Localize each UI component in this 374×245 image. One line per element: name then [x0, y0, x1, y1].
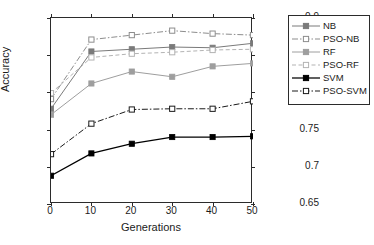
x-tick-label: 30	[151, 206, 191, 216]
data-point-marker	[89, 49, 94, 54]
chart-legend: NBPSO-NBRFPSO-RFSVMPSO-SVM	[288, 15, 370, 105]
chart-figure: Accuracy Generations 0.650.70.750.80.850…	[0, 0, 374, 245]
x-tick-label: 0	[30, 206, 70, 216]
legend-swatch-icon	[291, 59, 321, 71]
data-point-marker	[129, 51, 134, 56]
legend-item-label: NB	[323, 21, 336, 31]
data-point-marker	[250, 134, 253, 139]
legend-item-pso-svm[interactable]: PSO-SVM	[291, 84, 367, 97]
data-point-marker	[170, 50, 175, 55]
data-point-marker	[129, 33, 134, 38]
data-point-marker	[250, 41, 253, 46]
legend-swatch-icon	[291, 20, 321, 32]
legend-item-label: PSO-NB	[323, 34, 359, 44]
data-point-marker	[51, 91, 54, 96]
data-point-marker	[250, 99, 253, 104]
legend-swatch-icon	[291, 46, 321, 58]
data-point-marker	[51, 152, 54, 157]
data-point-marker	[250, 33, 253, 38]
x-tick-label: 40	[192, 206, 232, 216]
x-tick-label: 50	[232, 206, 272, 216]
data-point-marker	[170, 74, 175, 79]
legend-swatch-icon	[291, 72, 321, 84]
legend-item-rf[interactable]: RF	[291, 45, 367, 58]
data-point-marker	[170, 106, 175, 111]
legend-item-label: PSO-SVM	[323, 86, 367, 96]
data-point-marker	[89, 81, 94, 86]
legend-swatch-icon	[291, 33, 321, 45]
series-line	[51, 43, 253, 108]
x-axis-title: Generations	[50, 221, 252, 233]
x-tick-mark	[253, 14, 254, 18]
data-point-marker	[250, 47, 253, 52]
legend-item-label: SVM	[323, 73, 344, 83]
legend-swatch-icon	[291, 85, 321, 97]
legend-item-pso-nb[interactable]: PSO-NB	[291, 32, 367, 45]
legend-item-nb[interactable]: NB	[291, 19, 367, 32]
legend-item-svm[interactable]: SVM	[291, 71, 367, 84]
data-point-marker	[210, 134, 215, 139]
data-point-marker	[51, 96, 54, 101]
data-point-marker	[210, 64, 215, 69]
y-axis-title: Accuracy	[0, 47, 11, 92]
data-point-marker	[51, 106, 54, 111]
series-line	[51, 136, 253, 175]
data-point-marker	[89, 55, 94, 60]
series-line	[51, 31, 253, 99]
data-point-marker	[250, 61, 253, 66]
series-pso-nb	[51, 28, 253, 102]
series-canvas	[51, 18, 253, 204]
data-point-marker	[210, 106, 215, 111]
legend-item-pso-rf[interactable]: PSO-RF	[291, 58, 367, 71]
series-nb	[51, 41, 253, 112]
y-tick-label: 0.65	[300, 198, 319, 208]
data-point-marker	[129, 141, 134, 146]
series-rf	[51, 61, 253, 118]
x-tick-label: 10	[70, 206, 110, 216]
data-point-marker	[210, 31, 215, 36]
data-point-marker	[51, 173, 54, 178]
data-point-marker	[129, 107, 134, 112]
data-point-marker	[89, 151, 94, 156]
x-tick-mark	[253, 202, 254, 206]
legend-item-label: RF	[323, 47, 336, 57]
series-svm	[51, 134, 253, 179]
data-point-marker	[210, 47, 215, 52]
series-line	[51, 101, 253, 154]
y-tick-label: 0.7	[305, 161, 319, 171]
legend-item-label: PSO-RF	[323, 60, 359, 70]
series-pso-svm	[51, 99, 253, 157]
series-line	[51, 49, 253, 93]
data-point-marker	[170, 134, 175, 139]
data-point-marker	[170, 44, 175, 49]
x-tick-label: 20	[111, 206, 151, 216]
data-point-marker	[170, 28, 175, 33]
y-tick-label: 0.75	[300, 124, 319, 134]
data-point-marker	[51, 112, 54, 117]
data-point-marker	[89, 37, 94, 42]
data-point-marker	[89, 121, 94, 126]
data-point-marker	[129, 69, 134, 74]
plot-area	[50, 17, 252, 203]
